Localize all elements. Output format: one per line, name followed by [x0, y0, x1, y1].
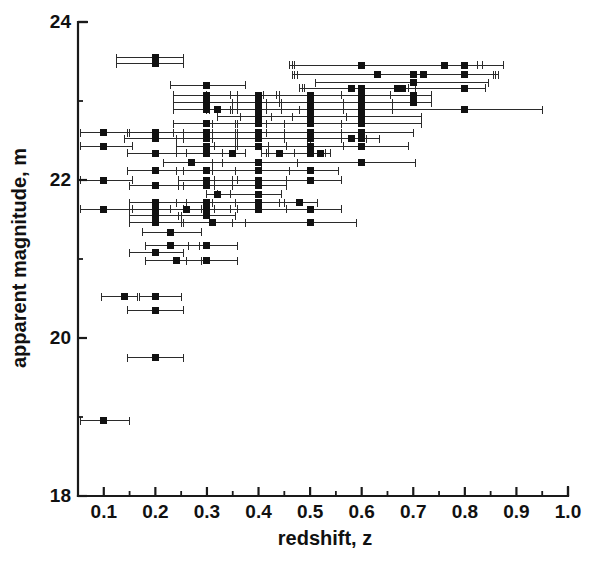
data-point-marker	[152, 293, 159, 300]
data-point-marker	[276, 150, 283, 157]
data-point-marker	[358, 120, 365, 127]
x-tick-label: 0.2	[142, 501, 168, 522]
data-point-marker	[203, 120, 210, 127]
data-point-marker	[307, 92, 314, 99]
data-point-marker	[307, 135, 314, 142]
y-axis-title: apparent magnitude, m	[8, 148, 30, 368]
data-point-marker	[152, 212, 159, 219]
data-point-marker	[461, 62, 468, 69]
data-point-marker	[152, 167, 159, 174]
data-point-marker	[358, 113, 365, 120]
scatter-plot-figure: 0.10.20.30.40.50.60.70.80.91.018202224 r…	[0, 0, 599, 567]
data-point-marker	[203, 167, 210, 174]
data-point-marker	[100, 129, 107, 136]
data-point-marker	[255, 99, 262, 106]
data-point-marker	[255, 113, 262, 120]
data-point-marker	[121, 293, 128, 300]
x-tick-label: 0.3	[194, 501, 220, 522]
data-point-marker	[203, 199, 210, 206]
data-point-marker	[348, 85, 355, 92]
data-point-marker	[152, 182, 159, 189]
data-point-marker	[255, 106, 262, 113]
y-tick-label: 20	[50, 327, 71, 348]
data-point-marker	[214, 106, 221, 113]
data-point-marker	[152, 206, 159, 213]
data-point-marker	[307, 143, 314, 150]
data-point-marker	[307, 177, 314, 184]
data-point-marker	[209, 219, 216, 226]
data-point-marker	[461, 106, 468, 113]
data-point-marker	[167, 229, 174, 236]
data-point-marker	[358, 143, 365, 150]
data-point-marker	[203, 257, 210, 264]
data-point-marker	[410, 71, 417, 78]
data-point-marker	[255, 182, 262, 189]
data-point-marker	[410, 79, 417, 86]
y-tick-label: 24	[50, 11, 72, 32]
data-point-marker	[307, 99, 314, 106]
data-point-marker	[307, 167, 314, 174]
data-point-marker	[100, 417, 107, 424]
data-point-marker	[255, 129, 262, 136]
data-point-marker	[255, 206, 262, 213]
data-point-marker	[152, 54, 159, 61]
data-point-marker	[399, 85, 406, 92]
data-point-marker	[229, 150, 236, 157]
y-tick-label: 22	[50, 169, 71, 190]
data-point-marker	[307, 106, 314, 113]
x-axis-title: redshift, z	[278, 527, 372, 549]
data-point-marker	[255, 167, 262, 174]
data-point-marker	[358, 129, 365, 136]
data-point-marker	[203, 242, 210, 249]
data-point-marker	[441, 62, 448, 69]
y-tick-label: 18	[50, 485, 71, 506]
data-point-marker	[358, 92, 365, 99]
data-point-marker	[152, 60, 159, 67]
x-tick-label: 0.7	[400, 501, 426, 522]
data-point-marker	[358, 159, 365, 166]
data-point-marker	[307, 219, 314, 226]
x-tick-label: 1.0	[555, 501, 581, 522]
data-point-marker	[214, 191, 221, 198]
data-point-marker	[203, 182, 210, 189]
data-point-marker	[152, 219, 159, 226]
data-point-marker	[374, 71, 381, 78]
data-point-marker	[188, 159, 195, 166]
x-tick-label: 0.6	[348, 501, 374, 522]
data-point-marker	[348, 135, 355, 142]
data-point-marker	[152, 354, 159, 361]
data-point-marker	[152, 199, 159, 206]
data-point-marker	[358, 106, 365, 113]
data-point-marker	[461, 85, 468, 92]
data-point-marker	[100, 143, 107, 150]
data-point-marker	[255, 120, 262, 127]
data-point-marker	[307, 120, 314, 127]
data-point-marker	[100, 177, 107, 184]
data-point-marker	[203, 212, 210, 219]
data-point-marker	[152, 135, 159, 142]
data-point-marker	[358, 99, 365, 106]
data-point-marker	[152, 307, 159, 314]
data-point-marker	[317, 150, 324, 157]
data-point-marker	[173, 257, 180, 264]
data-point-marker	[358, 62, 365, 69]
x-tick-label: 0.9	[503, 501, 529, 522]
data-point-marker	[296, 199, 303, 206]
data-point-marker	[203, 99, 210, 106]
axes-group	[78, 22, 568, 496]
data-point-marker	[461, 71, 468, 78]
tick-label-group: 0.10.20.30.40.50.60.70.80.91.018202224	[50, 11, 581, 522]
data-point-marker	[358, 135, 365, 142]
data-point-marker	[152, 129, 159, 136]
data-point-marker	[307, 206, 314, 213]
data-point-marker	[203, 206, 210, 213]
data-point-marker	[152, 150, 159, 157]
data-point-marker	[100, 206, 107, 213]
x-tick-label: 0.5	[297, 501, 324, 522]
data-point-marker	[203, 135, 210, 142]
x-tick-label: 0.1	[91, 501, 118, 522]
data-point-marker	[255, 135, 262, 142]
data-point-marker	[410, 99, 417, 106]
data-point-marker	[307, 150, 314, 157]
data-point-marker	[255, 143, 262, 150]
